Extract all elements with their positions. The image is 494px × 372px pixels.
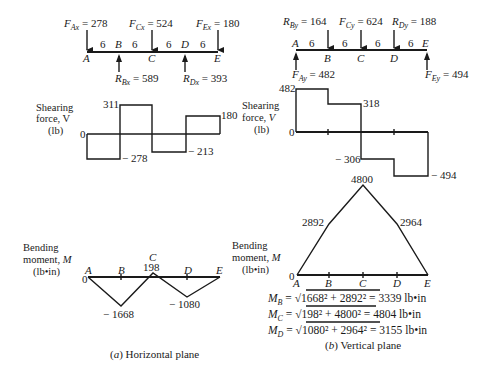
moment-axis-label: moment, M — [232, 252, 282, 263]
moment-axis-label: Bending — [23, 242, 59, 253]
reaction-arrow-up-icon — [424, 52, 430, 60]
horizontal-plane-panel: FAx = 278 FCx = 524 FEx = 180 RBx = 589 … — [23, 17, 240, 361]
resultant-moment-equations: MB = √1668² + 2892² = 3339 lb•in MC = √1… — [267, 290, 427, 339]
horizontal-beam: FAx = 278 FCx = 524 FEx = 180 RBx = 589 … — [63, 17, 240, 87]
horizontal-plane-caption: (a) Horizontal plane — [110, 348, 199, 361]
point-label-E: E — [215, 264, 223, 276]
span-length: 6 — [375, 37, 381, 49]
moment-value-label: − 1080 — [169, 298, 200, 310]
span-length: 6 — [132, 38, 138, 50]
point-label-B: B — [115, 38, 122, 50]
moment-curve — [88, 273, 220, 306]
svg-text:MB = √1668² + 2892² = 3339 lb•: MB = √1668² + 2892² = 3339 lb•in — [267, 292, 426, 307]
vertical-beam: RBy = 164 FCy = 624 RDy = 188 FAy = 482 … — [282, 15, 469, 83]
svg-text:MC = √198² + 4800² = 4804 lb•: MC = √198² + 4800² = 4804 lb•in — [267, 308, 421, 323]
span-length: 6 — [342, 37, 348, 49]
load-label-RBy: RBy = 164 — [282, 15, 327, 30]
span-length: 6 — [309, 37, 315, 49]
shear-axis-label: force, V — [242, 112, 277, 123]
moment-axis-unit: (lb•in) — [242, 264, 270, 276]
point-label-B: B — [325, 277, 332, 289]
vertical-plane-panel: RBy = 164 FCy = 624 RDy = 188 FAy = 482 … — [232, 15, 469, 352]
shear-axis-label: force, V — [36, 113, 71, 124]
span-length: 6 — [166, 38, 172, 50]
shear-axis-unit: (lb) — [48, 125, 64, 137]
point-label-A: A — [82, 52, 90, 64]
point-label-A: A — [291, 37, 299, 49]
moment-value-label: − 1668 — [103, 308, 134, 320]
reaction-label-FAy: FAy = 482 — [291, 68, 335, 83]
moment-value-label: 2964 — [400, 216, 423, 228]
shear-value-label: − 494 — [431, 169, 457, 181]
shear-value-label: 482 — [279, 82, 296, 94]
point-label-E: E — [213, 52, 221, 64]
horizontal-shear-diagram: Shearing force, V (lb) 0 311 − 278 − 213… — [36, 98, 238, 164]
shear-axis-label: Shearing — [242, 100, 280, 111]
load-label-FEx: FEx = 180 — [195, 17, 240, 32]
point-label-D: D — [392, 277, 401, 289]
point-label-C: C — [359, 277, 367, 289]
shear-axis-label: Shearing — [36, 102, 74, 113]
equation-MC: MC = √198² + 4800² = 4804 lb•in — [267, 306, 421, 323]
moment-value-label: 198 — [143, 261, 160, 273]
svg-text:MD = √1080² + 2964² = 3155 lb•: MD = √1080² + 2964² = 3155 lb•in — [267, 324, 427, 339]
reaction-label-RBx: RBx = 589 — [114, 72, 159, 87]
point-label-D: D — [180, 38, 189, 50]
shear-axis-unit: (lb) — [254, 124, 270, 136]
horizontal-moment-diagram: Bending moment, M (lb•in) 0 A B C D E 19… — [23, 242, 223, 320]
shear-zero-label: 0 — [289, 126, 295, 138]
shaft-load-diagrams: FAx = 278 FCx = 524 FEx = 180 RBx = 589 … — [0, 0, 494, 372]
shear-value-label: − 213 — [188, 145, 214, 157]
point-label-D: D — [389, 52, 398, 64]
load-label-RDy: RDy = 188 — [391, 15, 437, 30]
load-label-FCx: FCx = 524 — [128, 17, 173, 32]
moment-axis-label: Bending — [232, 240, 268, 251]
vertical-moment-diagram: Bending moment, M (lb•in) 0 A B C D E 48… — [232, 173, 431, 289]
equation-MD: MD = √1080² + 2964² = 3155 lb•in — [267, 322, 427, 339]
shear-value-label: 318 — [363, 97, 380, 109]
point-label-A: A — [292, 277, 300, 289]
point-label-B: B — [118, 264, 125, 276]
vertical-shear-diagram: Shearing force, V (lb) 0 482 318 − 306 −… — [242, 82, 457, 181]
load-label-FCy: FCy = 624 — [338, 15, 383, 30]
vertical-plane-caption: (b) Vertical plane — [325, 339, 401, 352]
reaction-arrow-up-icon — [293, 52, 299, 60]
reaction-label-RDx: RDx = 393 — [182, 72, 228, 87]
shear-value-label: − 306 — [335, 153, 361, 165]
point-label-B: B — [324, 52, 331, 64]
shear-zero-label: 0 — [80, 128, 86, 140]
span-length: 6 — [200, 38, 206, 50]
moment-axis-unit: (lb•in) — [33, 266, 61, 278]
reaction-label-FEy: FEy = 494 — [424, 68, 469, 83]
moment-axis-label: moment, M — [23, 254, 73, 265]
point-label-E: E — [421, 37, 429, 49]
moment-value-label: 4800 — [351, 173, 374, 185]
reaction-arrow-up-icon — [182, 54, 188, 62]
point-label-C: C — [357, 52, 365, 64]
shear-value-label: − 278 — [122, 152, 148, 164]
point-label-A: A — [84, 264, 92, 276]
point-label-D: D — [183, 264, 192, 276]
span-length: 6 — [100, 38, 106, 50]
span-length: 6 — [408, 37, 414, 49]
shear-value-label: 180 — [221, 109, 238, 121]
reaction-arrow-up-icon — [116, 54, 122, 62]
moment-curve — [297, 185, 428, 275]
point-label-C: C — [148, 52, 156, 64]
equation-MB: MB = √1668² + 2892² = 3339 lb•in — [267, 290, 426, 307]
load-label-FAx: FAx = 278 — [63, 17, 108, 32]
shear-value-label: 311 — [103, 98, 119, 110]
point-label-E: E — [423, 277, 431, 289]
moment-value-label: 2892 — [302, 216, 324, 228]
